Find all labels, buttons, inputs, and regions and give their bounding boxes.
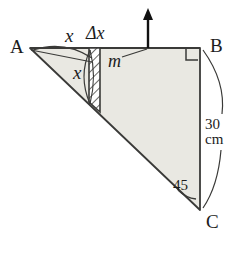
angle-label-45: 45 — [173, 178, 188, 193]
vertex-label-a: A — [10, 37, 24, 56]
label-mass-element: m — [108, 52, 121, 70]
vertex-label-c: C — [206, 212, 219, 231]
dimension-arc-lower — [203, 150, 221, 208]
dimension-arc-upper — [203, 50, 223, 114]
label-delta-x: Δx — [86, 24, 105, 42]
dimension-label-30cm: 30 cm — [205, 117, 223, 148]
geometry-figure: A B C x x Δx m 30 cm 45 — [0, 0, 246, 262]
dimension-value: 30 — [205, 117, 223, 132]
force-arrow-head — [143, 8, 153, 20]
dimension-unit: cm — [205, 132, 223, 147]
label-x-lower: x — [73, 63, 81, 82]
vertex-label-b: B — [210, 36, 223, 55]
label-x-upper: x — [65, 26, 73, 45]
